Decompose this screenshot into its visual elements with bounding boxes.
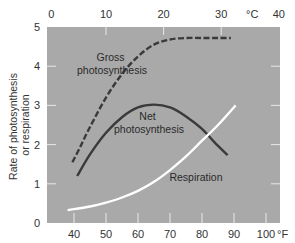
y-tick-label: 1	[34, 178, 40, 190]
x-top-tick-label: 20	[157, 8, 169, 20]
y-tick-label: 0	[34, 217, 40, 229]
x-top-tick-label: 40	[273, 8, 285, 20]
x-tick-label: 60	[132, 228, 144, 240]
y-axis-title: Rate of photosynthesis or respiration	[7, 70, 31, 180]
x-tick-label: 50	[100, 228, 112, 240]
y-tick-label: 2	[34, 139, 40, 151]
x-axis-unit-celsius: °C	[246, 8, 258, 20]
x-tick-label: 40	[68, 228, 80, 240]
x-tick-label: 80	[196, 228, 208, 240]
x-tick-label: 90	[228, 228, 240, 240]
x-tick-label: 70	[164, 228, 176, 240]
photosynthesis-respiration-chart: 405060708090100010203040012345 Gross pho…	[0, 0, 295, 243]
y-tick-label: 5	[34, 21, 40, 33]
y-tick-label: 4	[34, 60, 40, 72]
x-top-tick-label: 30	[215, 8, 227, 20]
x-top-tick-label: 10	[100, 8, 112, 20]
x-top-tick-label: 0	[48, 8, 54, 20]
y-tick-label: 3	[34, 99, 40, 111]
x-axis-unit-fahrenheit: °F	[277, 228, 288, 240]
respiration-label: Respiration	[169, 171, 222, 183]
x-tick-label: 100	[257, 228, 275, 240]
